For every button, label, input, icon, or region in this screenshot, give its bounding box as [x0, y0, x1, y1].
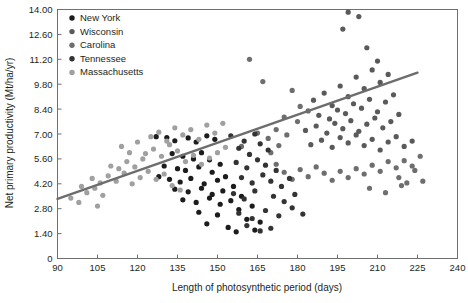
data-point — [207, 155, 212, 160]
legend-marker — [69, 15, 74, 20]
data-point — [244, 217, 249, 222]
legend-label: New York — [80, 12, 120, 23]
legend-item-carolina: Carolina — [69, 39, 116, 50]
data-point — [242, 139, 247, 144]
x-axis-ticks — [98, 255, 418, 259]
legend-item-wisconsin: Wisconsin — [69, 26, 123, 37]
y-tick-label: 2.80 — [34, 203, 53, 214]
data-point — [76, 200, 81, 205]
data-point — [274, 168, 279, 173]
data-point — [372, 115, 377, 120]
data-point — [279, 184, 284, 189]
legend-marker — [69, 70, 74, 75]
data-point — [159, 154, 164, 159]
data-point — [300, 211, 305, 216]
data-point — [218, 162, 223, 167]
data-point — [394, 165, 399, 170]
data-point — [212, 131, 217, 136]
data-point — [132, 164, 137, 169]
data-point — [172, 125, 177, 130]
data-point — [210, 170, 215, 175]
data-point — [183, 168, 188, 173]
data-point — [196, 137, 201, 142]
data-point — [308, 142, 313, 147]
legend-item-new-york: New York — [69, 12, 120, 23]
data-point — [124, 159, 129, 164]
data-point — [204, 123, 209, 128]
data-point — [162, 171, 167, 176]
chart-legend: New YorkWisconsinCarolinaTennesseeMassac… — [69, 12, 143, 77]
data-point — [247, 152, 252, 157]
data-point — [223, 174, 228, 179]
legend-label: Massachusetts — [80, 66, 144, 77]
data-point — [386, 159, 391, 164]
data-point — [188, 176, 193, 181]
data-point — [346, 175, 351, 180]
data-point — [268, 226, 273, 231]
data-point — [410, 163, 415, 168]
data-point — [220, 121, 225, 126]
data-point — [207, 195, 212, 200]
data-point — [391, 92, 396, 97]
data-point — [186, 189, 191, 194]
data-point — [167, 177, 172, 182]
data-point — [108, 163, 113, 168]
data-point-layer — [68, 10, 425, 235]
data-point — [346, 10, 351, 15]
data-point — [204, 221, 209, 226]
data-point — [258, 219, 263, 224]
data-point — [351, 101, 356, 106]
chart-canvas: 90105120135150165180195210225240 01.402.… — [0, 0, 468, 303]
data-point — [266, 147, 271, 152]
data-point — [162, 163, 167, 168]
data-point — [258, 141, 263, 146]
data-point — [175, 166, 180, 171]
data-point — [327, 116, 332, 121]
data-point — [316, 113, 321, 118]
data-point — [375, 109, 380, 114]
data-point — [402, 144, 407, 149]
data-point — [151, 147, 156, 152]
legend-marker — [69, 56, 74, 61]
series-wisconsin — [303, 10, 415, 153]
legend-label: Carolina — [80, 39, 116, 50]
data-point — [274, 127, 279, 132]
data-point — [383, 190, 388, 195]
data-point — [319, 138, 324, 143]
data-point — [290, 88, 295, 93]
data-point — [298, 167, 303, 172]
data-point — [263, 208, 268, 213]
data-point — [386, 72, 391, 77]
data-point — [164, 139, 169, 144]
x-tick-label: 165 — [250, 262, 266, 273]
data-point — [106, 173, 111, 178]
data-point — [271, 194, 276, 199]
data-point — [354, 74, 359, 79]
data-point — [388, 119, 393, 124]
data-point — [282, 170, 287, 175]
data-point — [215, 178, 220, 183]
data-point — [362, 143, 367, 148]
data-point — [95, 203, 100, 208]
data-point — [332, 121, 337, 126]
data-point — [402, 158, 407, 163]
data-point — [218, 202, 223, 207]
data-point — [180, 197, 185, 202]
x-tick-label: 225 — [410, 262, 426, 273]
data-point — [348, 118, 353, 123]
legend-marker — [69, 29, 74, 34]
data-point — [378, 169, 383, 174]
data-point — [359, 106, 364, 111]
data-point — [260, 172, 265, 177]
legend-item-massachusetts: Massachusetts — [69, 66, 143, 77]
data-point — [340, 126, 345, 131]
data-point — [356, 14, 361, 19]
data-point — [367, 97, 372, 102]
data-point — [194, 200, 199, 205]
data-point — [226, 225, 231, 230]
legend-label: Tennessee — [80, 53, 126, 64]
data-point — [68, 195, 73, 200]
data-point — [282, 199, 287, 204]
data-point — [268, 179, 273, 184]
data-point — [154, 177, 159, 182]
